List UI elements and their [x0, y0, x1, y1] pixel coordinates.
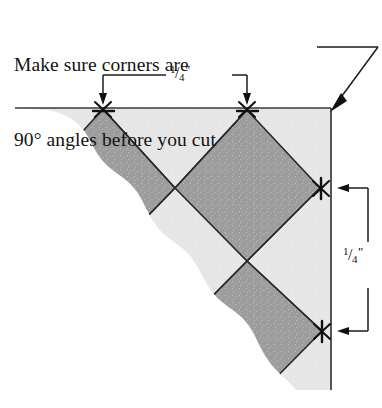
dimension-right-label: 1/4" [343, 245, 363, 265]
dimension-right-arrowhead-lower [337, 327, 349, 335]
caption-line-2: 90° angles before you cut [14, 127, 344, 152]
dimension-top-label: 1/4" [170, 63, 190, 83]
dim-right-unit: " [358, 244, 363, 259]
dim-top-unit: " [185, 62, 190, 77]
dim-right-denominator: 4 [352, 253, 358, 265]
caption-text: Make sure corners are 90° angles before … [14, 2, 344, 202]
figure-canvas: Make sure corners are 90° angles before … [0, 0, 382, 408]
dim-top-denominator: 4 [179, 71, 185, 83]
